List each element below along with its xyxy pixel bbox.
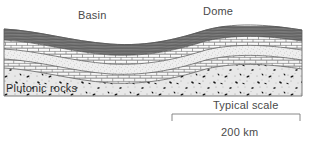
geologic-cross-section bbox=[0, 0, 310, 148]
cross-section-block bbox=[0, 20, 310, 110]
label-scale-length: 200 km bbox=[221, 126, 258, 138]
label-plutonic-rocks: Plutonic rocks bbox=[6, 82, 77, 94]
label-basin: Basin bbox=[78, 9, 107, 21]
label-typical-scale: Typical scale bbox=[213, 99, 279, 111]
scale-bar bbox=[172, 114, 300, 121]
label-dome: Dome bbox=[203, 5, 233, 17]
